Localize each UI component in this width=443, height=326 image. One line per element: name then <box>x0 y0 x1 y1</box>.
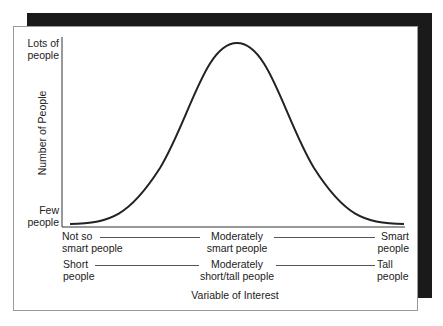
row1-left-line2: smart people <box>62 243 123 255</box>
row2-left-label: Short people <box>63 259 95 282</box>
row2-right-connector <box>276 265 375 266</box>
x-axis-title: Variable of Interest <box>180 290 290 302</box>
row1-center-line1: Moderately <box>200 231 274 243</box>
row2-right-line1: Tall <box>377 259 409 271</box>
row2-right-label: Tall people <box>377 259 409 282</box>
row2-left-line2: people <box>63 271 95 283</box>
row2-center-label: Moderately short/tall people <box>194 259 280 282</box>
row1-right-line2: people <box>370 243 409 255</box>
row2-center-line1: Moderately <box>194 259 280 271</box>
row2-left-connector <box>95 265 199 266</box>
row1-left-connector <box>100 237 200 238</box>
row1-right-label: Smart people <box>370 231 409 254</box>
y-bottom-label-line1: Few <box>14 205 59 217</box>
y-bottom-label-line2: people <box>14 217 59 229</box>
row2-left-line1: Short <box>63 259 95 271</box>
y-top-label-line1: Lots of <box>14 38 59 50</box>
row1-left-label: Not so smart people <box>62 231 123 254</box>
row2-center-line2: short/tall people <box>194 271 280 283</box>
y-top-label-line2: people <box>14 50 59 62</box>
row1-center-label: Moderately smart people <box>200 231 274 254</box>
y-top-label: Lots of people <box>14 38 59 61</box>
row2-right-line2: people <box>377 271 409 283</box>
row1-center-line2: smart people <box>200 243 274 255</box>
bell-curve <box>70 43 404 224</box>
y-axis-title: Number of People <box>36 83 48 183</box>
y-bottom-label: Few people <box>14 205 59 228</box>
row1-right-line1: Smart <box>370 231 409 243</box>
row1-right-connector <box>274 237 375 238</box>
